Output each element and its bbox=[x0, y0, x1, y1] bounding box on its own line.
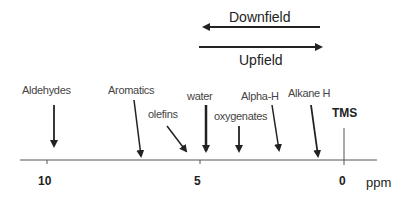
tick-label-0: 0 bbox=[339, 174, 346, 188]
oxygenates-label: oxygenates bbox=[214, 110, 267, 122]
tick-label-10: 10 bbox=[38, 174, 51, 188]
aldehydes-label: Aldehydes bbox=[22, 84, 71, 96]
tick-label-5: 5 bbox=[194, 174, 201, 188]
alpha-h-label: Alpha-H bbox=[241, 90, 279, 102]
alpha-h-arrow bbox=[272, 105, 279, 150]
aromatics-arrow bbox=[134, 100, 141, 156]
downfield-label: Downfield bbox=[229, 9, 290, 25]
water-label: water bbox=[187, 90, 212, 102]
olefins-label: olefins bbox=[148, 108, 178, 120]
alkane-h-arrow bbox=[311, 105, 318, 156]
upfield-label: Upfield bbox=[239, 52, 283, 68]
unit-label: ppm bbox=[366, 175, 391, 190]
aromatics-label: Aromatics bbox=[108, 84, 154, 96]
olefins-arrow bbox=[167, 126, 186, 151]
tms-label: TMS bbox=[332, 106, 357, 120]
alkane-h-label: Alkane H bbox=[288, 87, 330, 99]
nmr-chemical-shift-diagram: Downfield Upfield Aldehydes Aromatics ol… bbox=[0, 0, 408, 200]
